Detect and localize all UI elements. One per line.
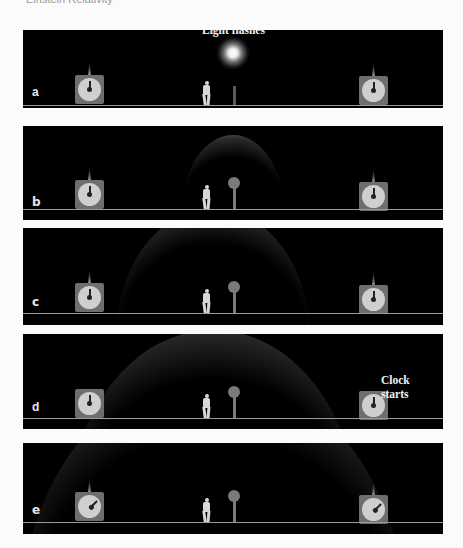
lamp-icon	[228, 386, 240, 418]
left-clock-icon	[75, 490, 104, 521]
right-clock-icon	[359, 74, 388, 105]
ground-line	[23, 105, 443, 106]
ground-line	[23, 522, 443, 523]
ground-line	[23, 418, 443, 419]
observer-icon	[202, 498, 212, 522]
lamp-icon	[228, 281, 240, 313]
panel-b: b	[23, 126, 443, 220]
observer-icon	[202, 81, 212, 105]
observer-icon	[202, 185, 212, 209]
panel-d: Clock starts d	[23, 334, 443, 429]
clock-starts-label: Clock starts	[381, 373, 410, 401]
light-flash-icon	[216, 36, 250, 70]
observer-icon	[202, 394, 212, 418]
left-clock-icon	[75, 73, 104, 104]
ground-line	[23, 209, 443, 210]
clock-starts-line1: Clock	[381, 373, 410, 387]
clock-starts-line2: starts	[381, 387, 410, 401]
light-wavefront	[69, 334, 357, 429]
lamp-icon	[228, 490, 240, 522]
header-partial-text: Einstein Relativity	[26, 0, 113, 5]
right-clock-icon	[359, 493, 388, 524]
light-wavefront	[116, 228, 310, 325]
panel-e: e	[23, 443, 443, 534]
panel-label: a	[32, 85, 39, 99]
panel-label: b	[32, 195, 41, 209]
observer-icon	[202, 289, 212, 313]
panel-c: c	[23, 228, 443, 325]
panel-a: Light flashes a	[23, 30, 443, 108]
panel-label: e	[32, 503, 40, 517]
lamp-icon	[228, 86, 240, 105]
panel-label: d	[32, 400, 39, 414]
ground-line	[23, 313, 443, 314]
lamp-icon	[228, 177, 240, 209]
right-clock-icon	[359, 283, 388, 314]
left-clock-icon	[75, 281, 104, 312]
panel-label: c	[32, 295, 39, 309]
left-clock-icon	[75, 387, 104, 418]
right-clock-icon	[359, 180, 388, 211]
left-clock-icon	[75, 178, 104, 209]
